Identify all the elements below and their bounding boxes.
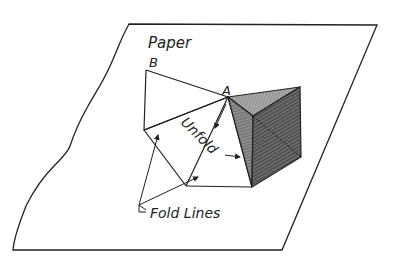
label-point-b: B — [149, 55, 158, 70]
label-paper: Paper — [148, 34, 192, 52]
label-fold-lines: Fold Lines — [150, 205, 220, 221]
fold-diagram: Paper B A Unfold Fold Lines — [0, 0, 393, 265]
label-point-a: A — [221, 83, 231, 98]
